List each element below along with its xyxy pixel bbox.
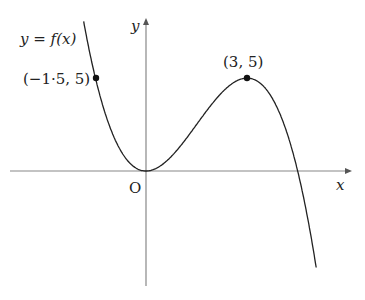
function-curve: [84, 21, 317, 267]
x-axis-label: x: [336, 176, 345, 194]
origin-label: O: [129, 179, 141, 197]
axes: [10, 18, 352, 286]
x-axis-arrow-icon: [345, 168, 352, 174]
graph: y = f(x) (−1·5, 5) (3, 5) O x y: [0, 0, 365, 300]
y-axis-label: y: [130, 17, 140, 35]
point-left-label: (−1·5, 5): [23, 70, 90, 88]
point-max-marker: [244, 75, 250, 81]
function-label: y = f(x): [19, 30, 76, 48]
y-axis-arrow-icon: [143, 18, 149, 25]
point-left-marker: [93, 75, 99, 81]
point-max-label: (3, 5): [223, 53, 263, 71]
